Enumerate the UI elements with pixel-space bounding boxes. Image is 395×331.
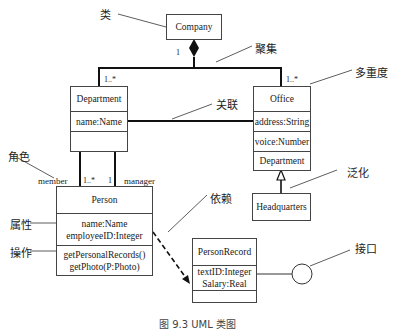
annotation-generalization: 泛化: [347, 164, 369, 180]
annotation-attribute: 属性: [10, 216, 32, 232]
annotation-interface: 接口: [355, 240, 377, 256]
class-department: Department name:Name: [70, 86, 128, 152]
leader-interface: [310, 250, 350, 266]
class-attribute: address:String: [254, 111, 310, 131]
class-attributes: textID:Integer Salary:Real: [193, 265, 256, 290]
multiplicity-department: 1..*: [104, 75, 116, 84]
generalization-arrow-icon: [277, 170, 285, 180]
figure-caption: 图 9.3 UML 类图: [0, 316, 395, 331]
role-manager: manager: [124, 175, 155, 187]
class-extra: Department: [254, 151, 310, 170]
dependency-arrow-icon: [182, 275, 190, 284]
class-operation: getPersonalRecords(): [64, 249, 146, 261]
dependency-line: [153, 232, 186, 278]
class-attribute: voice:Number: [254, 131, 310, 151]
class-name: Department: [71, 87, 127, 111]
class-name: Headquarters: [253, 194, 310, 220]
leader-dependency: [168, 195, 207, 232]
class-operation: getPhoto(P:Photo): [69, 261, 139, 273]
leader-generalization: [290, 170, 337, 188]
interface-circle-icon: [292, 264, 312, 284]
class-attribute: name:Name: [71, 111, 127, 131]
annotation-dependency: 依赖: [210, 190, 232, 206]
multiplicity-manager: 1: [108, 176, 112, 185]
annotation-multiplicity: 多重度: [355, 64, 388, 80]
class-operations: getPersonalRecords() getPhoto(P:Photo): [57, 245, 152, 275]
class-company: Company: [166, 14, 222, 40]
class-attribute: name:Name: [82, 218, 128, 230]
annotation-aggregation: 聚集: [255, 40, 277, 56]
composition-diamond-icon: [189, 39, 199, 57]
class-office: Office address:String voice:Number Depar…: [253, 86, 311, 171]
multiplicity-company: 1: [176, 48, 180, 57]
class-operations-empty: [71, 131, 127, 151]
annotation-role: 角色: [8, 148, 30, 164]
class-attribute: employeeID:Integer: [66, 230, 143, 242]
leader-aggregation: [216, 46, 252, 62]
leader-class: [118, 14, 166, 27]
composition-line: [99, 68, 281, 86]
class-attribute: Salary:Real: [202, 278, 246, 290]
multiplicity-member: 1..*: [83, 176, 95, 185]
class-operations-empty: [193, 290, 256, 302]
annotation-association: 关联: [216, 96, 238, 112]
leader-association: [172, 104, 212, 119]
annotation-operation: 操作: [10, 244, 32, 260]
leader-multiplicity: [310, 70, 352, 84]
class-attributes: name:Name employeeID:Integer: [57, 213, 152, 245]
class-name: Company: [167, 15, 221, 39]
class-person: Person name:Name employeeID:Integer getP…: [56, 186, 153, 276]
class-name: PersonRecord: [193, 239, 256, 265]
class-attribute: textID:Integer: [198, 266, 252, 278]
multiplicity-office: 1..*: [286, 75, 298, 84]
role-member: member: [38, 175, 68, 187]
class-person-record: PersonRecord textID:Integer Salary:Real: [192, 238, 257, 303]
class-name: Office: [254, 87, 310, 111]
class-name: Person: [57, 187, 152, 213]
class-headquarters: Headquarters: [252, 193, 311, 221]
annotation-class: 类: [100, 6, 111, 22]
